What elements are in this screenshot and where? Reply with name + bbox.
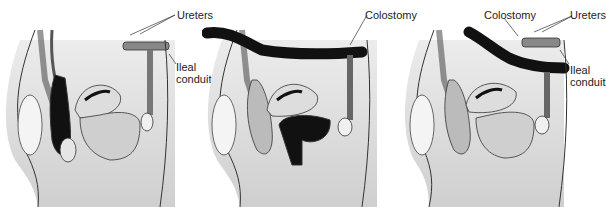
sacrum-icon	[18, 95, 42, 155]
sacrum-icon	[212, 95, 236, 155]
ileal-conduit-icon	[123, 42, 169, 50]
diagram-panel-total: Colostomy Ureters Ileal conduit	[404, 0, 606, 207]
sacrum-icon	[410, 95, 434, 155]
pelvis-sagittal-illustration	[0, 0, 202, 207]
diagram-panel-anterior: Ureters Ileal conduit	[0, 0, 202, 207]
pelvis-sagittal-illustration	[404, 0, 606, 207]
diagram-panel-posterior: Colostomy	[202, 0, 404, 207]
ileal-conduit-icon	[522, 38, 560, 47]
label-ileal-conduit-line1: Ileal	[570, 64, 590, 76]
label-ileal-conduit-line1: Ileal	[176, 61, 196, 73]
pelvis-sagittal-illustration	[202, 0, 404, 207]
label-colostomy: Colostomy	[484, 9, 536, 21]
label-ileal-conduit-line2: conduit	[570, 76, 605, 88]
label-ureters: Ureters	[570, 9, 606, 21]
